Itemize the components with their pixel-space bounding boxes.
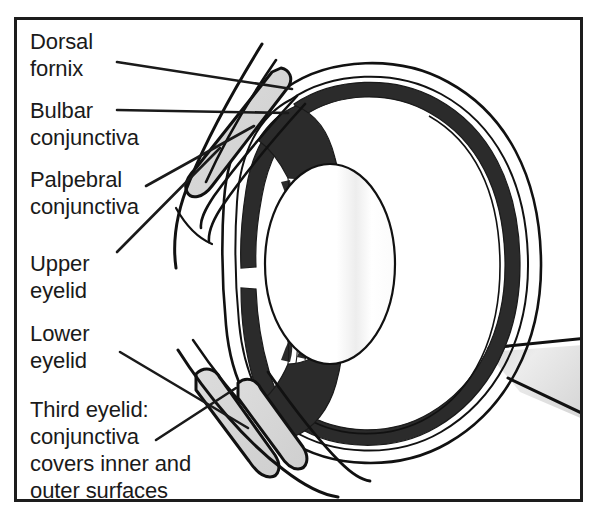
label-third-eyelid: Third eyelid: conjunctiva covers inner a… (30, 396, 191, 504)
label-dorsal-fornix: Dorsal fornix (30, 28, 93, 82)
label-bulbar-conjunctiva: Bulbar conjunctiva (30, 97, 139, 151)
label-upper-eyelid: Upper eyelid (30, 250, 89, 304)
label-lower-eyelid: Lower eyelid (30, 320, 89, 374)
lens (265, 164, 395, 364)
eye-anatomy-figure: Dorsal fornix Bulbar conjunctiva Palpebr… (0, 0, 597, 519)
label-palpebral-conjunctiva: Palpebral conjunctiva (30, 166, 139, 220)
